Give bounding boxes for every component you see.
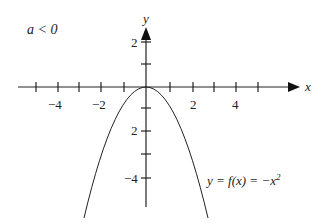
function-exponent: 2 xyxy=(276,172,281,182)
y-axis-arrow-icon xyxy=(141,27,151,40)
y-tick-label: 2 xyxy=(131,124,138,137)
x-axis-label: x xyxy=(305,80,311,93)
function-label: y = f(x) = −x2 xyxy=(207,173,280,187)
function-label-text: y = f(x) = −x xyxy=(207,173,276,188)
x-tick-label: −4 xyxy=(48,98,62,111)
x-tick-label: −2 xyxy=(92,98,106,111)
y-axis-label: y xyxy=(143,12,149,25)
x-axis-arrow-icon xyxy=(288,82,300,92)
y-tick-label: −4 xyxy=(124,172,138,185)
y-tick-label: 2 xyxy=(131,36,138,49)
x-tick-label: 2 xyxy=(190,98,197,111)
condition-label: a < 0 xyxy=(27,23,57,37)
x-tick-label: 4 xyxy=(232,98,239,111)
